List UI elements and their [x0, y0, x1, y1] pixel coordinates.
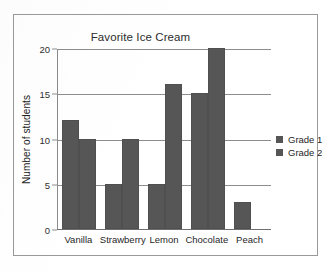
- bar-group: [105, 48, 139, 229]
- legend-item: Grade 2: [276, 146, 322, 159]
- y-axis-title: Number of students: [20, 49, 34, 230]
- x-axis-line: [57, 229, 271, 230]
- bar-group: [148, 48, 182, 229]
- bar-group: [191, 48, 225, 229]
- legend-item-label: Grade 2: [288, 147, 322, 158]
- plot-area: 05101520: [57, 49, 271, 230]
- bar-grade-2-vanilla: [79, 139, 96, 230]
- bar-grade-2-chocolate: [208, 48, 225, 229]
- screenshot-root: Favorite Ice Cream Number of students 05…: [0, 0, 334, 271]
- y-tick-label: 10: [39, 134, 50, 145]
- legend-item-label: Grade 1: [288, 134, 322, 145]
- legend-item: Grade 1: [276, 133, 322, 146]
- x-tick-label: Strawberry: [100, 234, 143, 245]
- bar-group: [62, 48, 96, 229]
- y-tick-mark: [52, 94, 57, 95]
- y-tick-label: 5: [45, 179, 50, 190]
- chart-legend: Grade 1Grade 2: [276, 133, 322, 159]
- y-tick-mark: [52, 230, 57, 231]
- y-tick-mark: [52, 139, 57, 140]
- x-tick-label: Peach: [228, 234, 271, 245]
- y-tick-mark: [52, 184, 57, 185]
- x-tick-label: Chocolate: [185, 234, 228, 245]
- y-tick-label: 20: [39, 44, 50, 55]
- y-axis-title-label: Number of students: [22, 95, 33, 184]
- x-tick-label: Lemon: [143, 234, 186, 245]
- legend-swatch-icon: [276, 149, 283, 156]
- bar-grade-2-strawberry: [122, 139, 139, 230]
- bar-grade-1-vanilla: [62, 120, 79, 229]
- bar-grade-1-chocolate: [191, 93, 208, 229]
- bar-group: [234, 48, 268, 229]
- chart-frame: Favorite Ice Cream Number of students 05…: [13, 14, 318, 256]
- page-title: Favorite Ice Cream: [14, 31, 267, 43]
- bar-grade-1-peach: [234, 202, 251, 229]
- y-tick-label: 15: [39, 89, 50, 100]
- bar-grade-2-lemon: [165, 84, 182, 229]
- legend-swatch-icon: [276, 136, 283, 143]
- bar-grade-1-strawberry: [105, 184, 122, 229]
- y-tick-mark: [52, 49, 57, 50]
- x-tick-label: Vanilla: [57, 234, 100, 245]
- y-tick-label: 0: [45, 225, 50, 236]
- bar-grade-1-lemon: [148, 184, 165, 229]
